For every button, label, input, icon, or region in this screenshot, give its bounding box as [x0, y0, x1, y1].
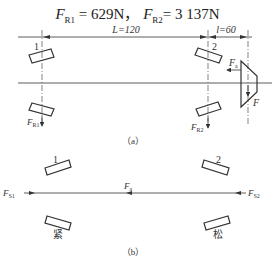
caption-b: （b） — [122, 247, 145, 257]
dimension-l: l=60 — [216, 24, 236, 35]
fs1-label: FS1 — [2, 188, 15, 199]
caption-a: （a） — [122, 136, 144, 146]
fs1-arrow — [29, 191, 35, 195]
right-state-label: 松 — [213, 228, 223, 240]
dim-arrow-left — [43, 35, 50, 39]
bearing-2-lower — [196, 102, 221, 116]
bearing-1-upper — [29, 49, 54, 63]
axial-force-label: Fa — [228, 57, 238, 69]
bearing-1-lower — [29, 103, 54, 116]
figure-b: 1 紧 2 松 FS1 Fa FS2 （b） — [2, 154, 260, 257]
dimension-L: L=120 — [111, 24, 139, 35]
bearing-2-label: 2 — [212, 41, 217, 52]
fr1-label: FR1 — [26, 117, 40, 128]
b-bearing-2-label: 2 — [216, 154, 221, 165]
dim-arrow-right — [200, 35, 207, 39]
b-bearing-1-label: 1 — [53, 154, 58, 165]
bearing-1-label: 1 — [34, 41, 39, 52]
fr2-label: FR2 — [190, 122, 204, 133]
figure-a: L=120 l=60 1 2 Fa F FR1 FR2 — [18, 24, 272, 146]
fs2-arrow — [235, 191, 241, 195]
b-fa-label: Fa — [123, 181, 133, 192]
b-bearing-2-lower — [204, 216, 230, 230]
bearing-2-upper — [195, 48, 222, 63]
b-bearing-1-upper — [45, 160, 71, 175]
dim-arrow-l-left — [209, 35, 216, 39]
fs2-label: FS2 — [247, 188, 260, 199]
dim-arrow-l-right — [240, 35, 247, 39]
bearing-diagram: L=120 l=60 1 2 Fa F FR1 FR2 — [0, 0, 275, 259]
gear-force-label: F — [252, 97, 260, 108]
b-bearing-1-lower — [45, 216, 71, 230]
left-state-label: 紧 — [53, 229, 63, 240]
